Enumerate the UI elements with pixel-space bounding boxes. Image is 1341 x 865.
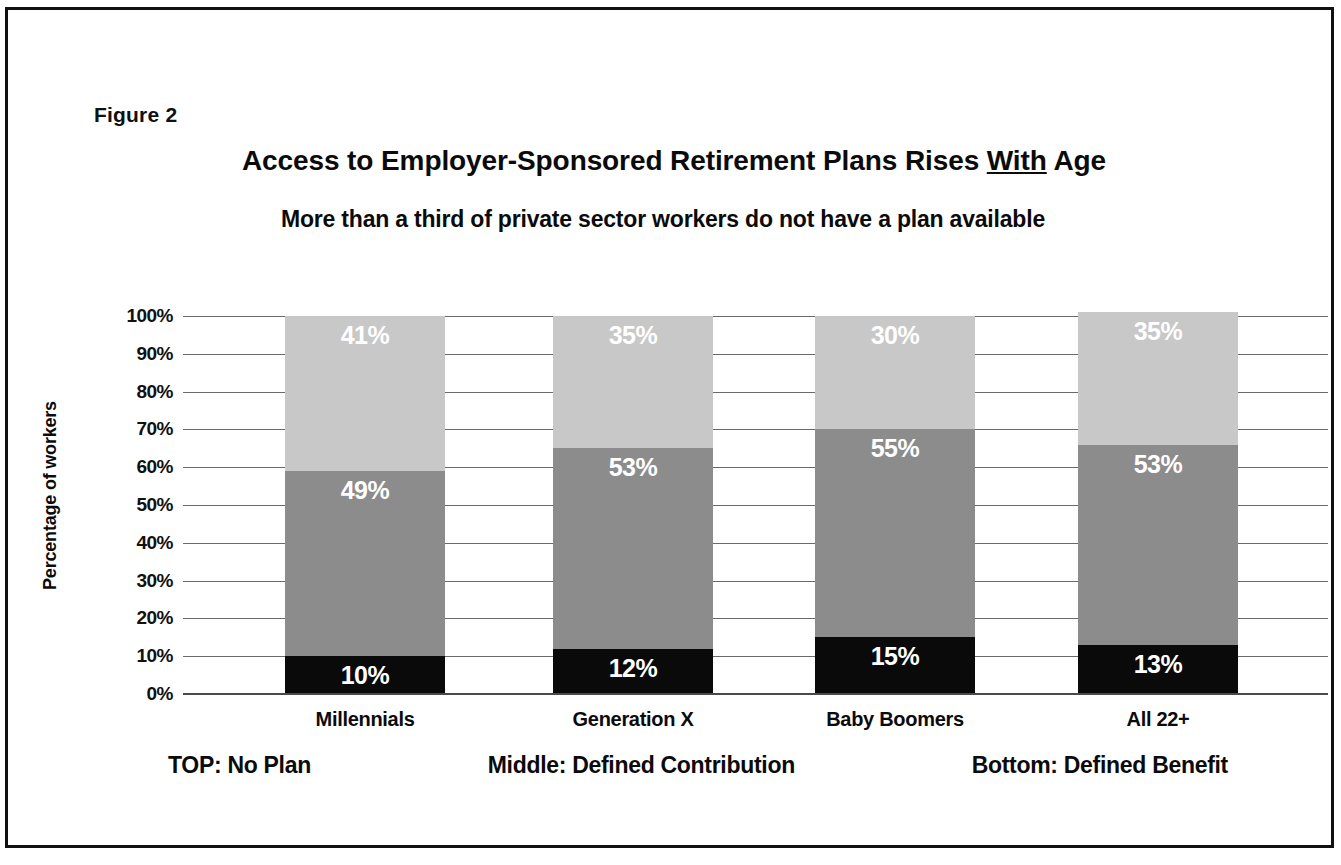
legend-item-no-plan: TOP: No Plan	[168, 752, 311, 779]
bar-segment[interactable]: 30%	[815, 316, 975, 429]
chart-title: Access to Employer-Sponsored Retirement …	[94, 145, 1254, 177]
plot-area: 0%10%20%30%40%50%60%70%80%90%100% 41%49%…	[183, 316, 1328, 694]
y-axis-tick-label: 10%	[53, 645, 173, 667]
bar-segment-value-label: 15%	[815, 642, 975, 671]
bar-segment-value-label: 30%	[815, 321, 975, 350]
y-axis-tick-label: 90%	[53, 343, 173, 365]
x-axis-category-label: Generation X	[503, 708, 763, 731]
figure-number-label: Figure 2	[94, 103, 177, 127]
chart-title-part-1: Access to Employer-Sponsored Retirement …	[242, 145, 987, 176]
stacked-bar[interactable]: 35%53%12%	[553, 316, 713, 694]
bar-segment-value-label: 12%	[553, 654, 713, 683]
stacked-bar[interactable]: 35%53%13%	[1078, 312, 1238, 694]
stacked-bar[interactable]: 41%49%10%	[285, 316, 445, 694]
bar-segment[interactable]: 35%	[1078, 312, 1238, 444]
x-axis-category-label: Millennials	[235, 708, 495, 731]
x-axis-line	[183, 693, 1328, 695]
bar-segment[interactable]: 53%	[553, 448, 713, 648]
chart-title-part-2: Age	[1047, 145, 1106, 176]
figure-frame: Figure 2 Access to Employer-Sponsored Re…	[5, 7, 1334, 848]
bar-segment[interactable]: 55%	[815, 429, 975, 637]
bar-segment[interactable]: 53%	[1078, 445, 1238, 645]
bar-segment[interactable]: 35%	[553, 316, 713, 448]
x-axis-category-label: Baby Boomers	[765, 708, 1025, 731]
chart-title-emphasis: With	[987, 145, 1047, 176]
legend-item-defined-benefit: Bottom: Defined Benefit	[972, 752, 1228, 779]
y-axis-tick-label: 0%	[53, 683, 173, 705]
bar-segment-value-label: 10%	[285, 661, 445, 690]
y-axis-tick-label: 70%	[53, 418, 173, 440]
y-axis-tick-label: 30%	[53, 570, 173, 592]
y-axis-tick-label: 20%	[53, 607, 173, 629]
chart-subtitle: More than a third of private sector work…	[88, 206, 1238, 233]
bar-segment[interactable]: 41%	[285, 316, 445, 471]
y-axis-tick-label: 50%	[53, 494, 173, 516]
bar-segment-value-label: 49%	[285, 476, 445, 505]
y-axis-tick-label: 80%	[53, 381, 173, 403]
stacked-bar[interactable]: 30%55%15%	[815, 316, 975, 694]
bar-segment-value-label: 35%	[1078, 317, 1238, 346]
x-axis-category-label: All 22+	[1028, 708, 1288, 731]
bar-segment-value-label: 35%	[553, 321, 713, 350]
bar-segment[interactable]: 49%	[285, 471, 445, 656]
legend-item-defined-contribution: Middle: Defined Contribution	[488, 752, 795, 779]
y-axis-tick-label: 100%	[53, 305, 173, 327]
bar-segment-value-label: 55%	[815, 434, 975, 463]
bar-segment-value-label: 13%	[1078, 650, 1238, 679]
bar-segment[interactable]: 10%	[285, 656, 445, 694]
bar-segment[interactable]: 12%	[553, 649, 713, 694]
y-axis-tick-label: 60%	[53, 456, 173, 478]
bar-segment-value-label: 41%	[285, 321, 445, 350]
bar-segment[interactable]: 15%	[815, 637, 975, 694]
bar-segment-value-label: 53%	[553, 453, 713, 482]
bar-segment-value-label: 53%	[1078, 450, 1238, 479]
legend: TOP: No Plan Middle: Defined Contributio…	[168, 752, 1228, 779]
y-axis-tick-label: 40%	[53, 532, 173, 554]
bar-segment[interactable]: 13%	[1078, 645, 1238, 694]
